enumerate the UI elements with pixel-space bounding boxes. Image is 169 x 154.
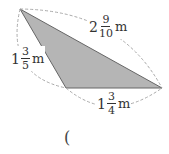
side-label-bottom-right: 1 3 4 m [96,91,131,116]
denominator: 4 [108,104,115,116]
whole-number: 2 [89,20,98,34]
unit: m [32,52,44,65]
fraction: 9 10 [99,14,113,39]
whole-number: 1 [11,52,20,66]
unit: m [118,97,130,110]
fraction: 3 5 [21,46,30,71]
answer-blank-paren: ( [64,128,70,147]
triangle-diagram [0,0,169,154]
numerator: 3 [21,46,30,59]
fraction: 3 4 [107,91,116,116]
side-label-top-bottom: 1 3 5 m [10,46,45,71]
denominator: 5 [22,59,29,71]
numerator: 9 [101,14,110,27]
side-label-top-right: 2 9 10 m [88,14,128,39]
denominator: 10 [99,27,113,39]
unit: m [115,20,127,33]
whole-number: 1 [97,97,106,111]
numerator: 3 [107,91,116,104]
